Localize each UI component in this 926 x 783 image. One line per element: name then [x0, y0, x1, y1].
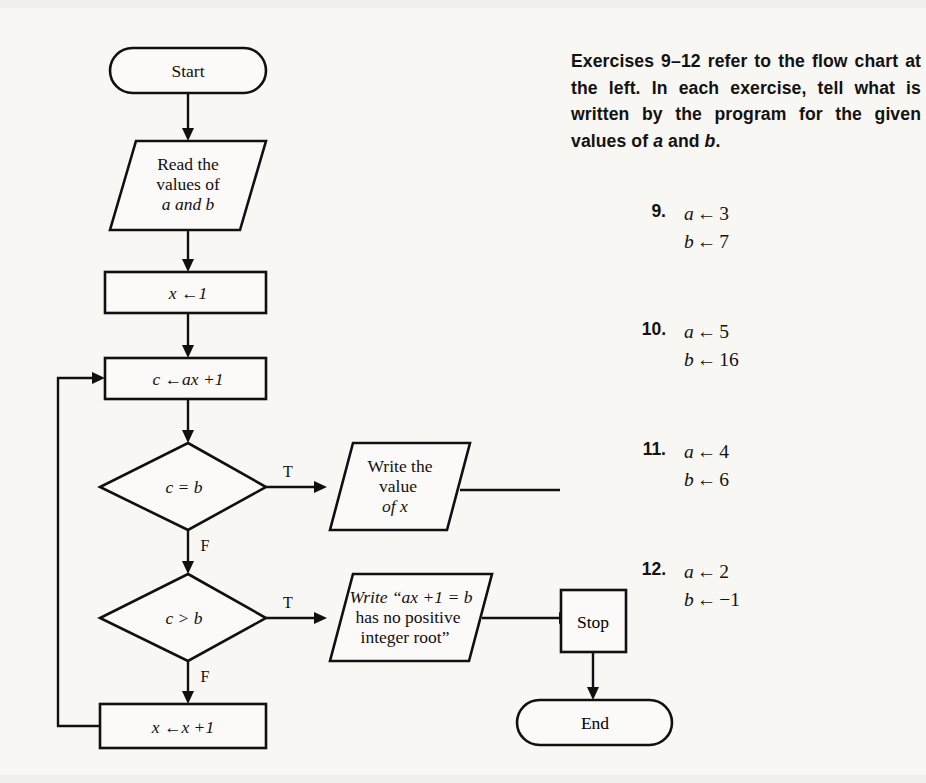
assign-arrow-icon: ← — [694, 349, 720, 370]
flow-node-decide-gt: c > b — [100, 574, 266, 661]
flow-arrow-start-read — [182, 93, 194, 141]
exercise-body: a←3 b←7 — [684, 200, 729, 256]
exercise-var-b: b — [684, 231, 694, 252]
flow-node-init-x: x ←1 — [105, 272, 266, 313]
assign-arrow-icon: ← — [694, 469, 720, 490]
flow-node-read-line3: a and b — [162, 194, 215, 214]
flow-branch-label-eq-false: F — [201, 537, 210, 554]
exercise-value-a: 2 — [719, 561, 729, 582]
exercise-line-b: b←7 — [684, 228, 729, 256]
flow-node-compute-c: c ←ax +1 — [105, 358, 266, 399]
flow-arrow-init-compute — [182, 313, 194, 358]
flow-node-write-value: Write the value of x — [330, 443, 470, 530]
flow-node-increment-x-label: x ←x +1 — [151, 717, 214, 737]
flow-node-write-noroot-line3: integer root” — [361, 627, 450, 647]
flow-node-write-value-line2: value — [379, 476, 417, 496]
flow-arrow-writenoroot-stop — [482, 612, 560, 624]
flow-node-write-value-line1: Write the — [368, 456, 433, 476]
instructions-text-3: . — [715, 131, 720, 151]
assign-arrow-icon: ← — [694, 231, 720, 252]
exercise-value-a: 3 — [719, 203, 729, 224]
assign-arrow-icon: ← — [694, 441, 720, 462]
assign-arrow-icon: ← — [694, 589, 720, 610]
flow-node-read-line2: values of — [156, 174, 220, 194]
exercise-value-a: 5 — [719, 321, 729, 342]
exercise-value-b: 16 — [719, 349, 739, 370]
flow-node-compute-c-label: c ←ax +1 — [152, 369, 223, 389]
flow-node-decide-gt-label: c > b — [165, 608, 202, 628]
flow-arrow-read-init — [182, 230, 194, 272]
flow-arrow-gt-true: T — [266, 594, 327, 624]
exercise-var-b: b — [684, 469, 694, 490]
flow-arrow-compute-decide-eq — [182, 399, 194, 443]
assign-arrow-icon: ← — [694, 561, 720, 582]
exercise-body: a←2 b←−1 — [684, 558, 740, 614]
flow-node-decide-eq: c = b — [100, 443, 266, 530]
exercise-number: 9. — [626, 200, 666, 222]
exercise-item-12[interactable]: 12. a←2 b←−1 — [626, 558, 740, 614]
flow-branch-label-gt-true: T — [283, 594, 293, 611]
flow-arrow-gt-false: F — [182, 661, 210, 704]
exercise-body: a←4 b←6 — [684, 438, 729, 494]
exercise-var-a: a — [684, 203, 694, 224]
flow-node-write-noroot-line2: has no positive — [356, 607, 461, 627]
exercise-value-b: 7 — [719, 231, 729, 252]
exercise-value-b: −1 — [719, 589, 740, 610]
flow-node-read-line1: Read the — [157, 154, 219, 174]
exercise-line-a: a←4 — [684, 438, 729, 466]
exercise-number: 11. — [626, 438, 666, 460]
exercise-var-a: a — [684, 321, 694, 342]
exercise-var-b: b — [684, 349, 694, 370]
exercise-item-11[interactable]: 11. a←4 b←6 — [626, 438, 729, 494]
instructions-var-b: b — [705, 131, 716, 151]
flow-node-start-label: Start — [171, 61, 204, 81]
page-canvas: Start Read the values of a and b x ←1 — [0, 0, 926, 783]
flow-arrow-eq-false: F — [182, 530, 210, 574]
instructions-text-2: and — [663, 131, 705, 151]
exercise-body: a←5 b←16 — [684, 318, 739, 374]
flow-arrow-eq-true: T — [266, 463, 327, 493]
exercise-line-a: a←3 — [684, 200, 729, 228]
assign-arrow-icon: ← — [694, 321, 720, 342]
exercise-panel: Exercises 9–12 refer to the flow chart a… — [558, 0, 926, 783]
instructions-text-1: Exercises 9–12 refer to the flow chart a… — [571, 51, 921, 151]
exercise-item-9[interactable]: 9. a←3 b←7 — [626, 200, 729, 256]
instructions-paragraph: Exercises 9–12 refer to the flow chart a… — [571, 48, 921, 154]
exercise-number: 10. — [626, 318, 666, 340]
flow-node-decide-eq-label: c = b — [165, 477, 202, 497]
flow-node-write-noroot-line1: Write “ax +1 = b — [350, 587, 473, 607]
flow-node-start: Start — [110, 48, 266, 93]
assign-arrow-icon: ← — [694, 203, 720, 224]
exercise-item-10[interactable]: 10. a←5 b←16 — [626, 318, 739, 374]
exercise-var-a: a — [684, 441, 694, 462]
exercise-line-b: b←16 — [684, 346, 739, 374]
exercise-line-a: a←2 — [684, 558, 740, 586]
flow-node-write-noroot: Write “ax +1 = b has no positive integer… — [330, 574, 492, 661]
flow-node-increment-x: x ←x +1 — [100, 704, 266, 748]
instructions-var-a: a — [653, 131, 663, 151]
exercise-number: 12. — [626, 558, 666, 580]
exercise-value-a: 4 — [719, 441, 729, 462]
exercise-line-b: b←6 — [684, 466, 729, 494]
exercise-line-b: b←−1 — [684, 586, 740, 614]
flow-node-read: Read the values of a and b — [110, 141, 266, 230]
flow-node-init-x-label: x ←1 — [168, 283, 207, 303]
flowchart: Start Read the values of a and b x ←1 — [0, 0, 560, 783]
flow-branch-label-gt-false: F — [201, 668, 210, 685]
flow-branch-label-eq-true: T — [283, 463, 293, 480]
flow-node-write-value-line3: of x — [382, 496, 408, 516]
flow-arrow-loopback — [58, 372, 105, 726]
exercise-value-b: 6 — [719, 469, 729, 490]
exercise-line-a: a←5 — [684, 318, 739, 346]
exercise-var-a: a — [684, 561, 694, 582]
exercise-var-b: b — [684, 589, 694, 610]
